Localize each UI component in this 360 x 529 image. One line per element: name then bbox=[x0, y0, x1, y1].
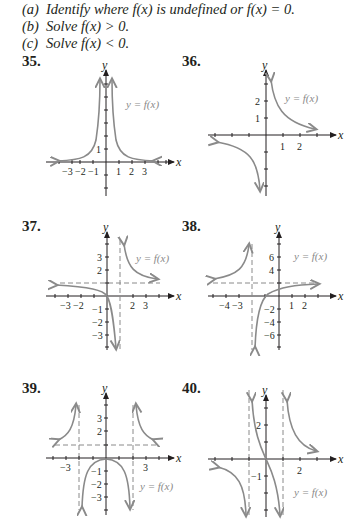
x-tick-label: 2 bbox=[130, 300, 135, 311]
graph-35: −3 −2 −1 1 2 3 1 x y y = f(x) bbox=[46, 58, 182, 196]
curve-left-branch bbox=[58, 405, 76, 440]
curve-right-branch bbox=[112, 80, 154, 161]
y-tick-label: −4 bbox=[264, 317, 275, 328]
y-tick-label: 2 bbox=[97, 426, 102, 437]
x-tick-label: −3 bbox=[62, 166, 73, 177]
graph-37: −3 −2 2 3 3 2 −1 −2 −3 x y y = f(x) bbox=[46, 220, 182, 350]
x-tick-label: −2 bbox=[75, 166, 86, 177]
y-tick-label: 3 bbox=[97, 252, 102, 263]
x-tick-label: −1 bbox=[88, 166, 99, 177]
y-tick-label: 3 bbox=[97, 413, 102, 424]
x-tick-label: 2 bbox=[297, 141, 302, 152]
y-axis-label: y bbox=[261, 58, 268, 72]
function-label: y = f(x) bbox=[135, 252, 169, 265]
x-tick-label: 2 bbox=[297, 465, 302, 476]
curve-left-branch bbox=[218, 467, 246, 515]
y-tick-label: 2 bbox=[97, 265, 102, 276]
x-tick-label: −3 bbox=[60, 462, 71, 473]
x-axis-label: x bbox=[337, 452, 344, 466]
x-axis-label: x bbox=[175, 289, 182, 303]
x-axis-label: x bbox=[337, 128, 344, 142]
function-label: y = f(x) bbox=[293, 486, 327, 499]
x-tick-label: 1 bbox=[289, 300, 294, 311]
y-tick-label: 1 bbox=[255, 113, 260, 124]
y-axis-label: y bbox=[102, 220, 109, 234]
y-tick-label: −2 bbox=[92, 317, 103, 328]
graph-39: −3 3 3 2 −1 −2 −3 x y y = f(x) bbox=[46, 381, 182, 515]
y-tick-label: 4 bbox=[269, 265, 274, 276]
x-tick-label: 3 bbox=[143, 462, 148, 473]
function-label: y = f(x) bbox=[293, 250, 327, 263]
x-tick-label: 2 bbox=[129, 166, 134, 177]
y-axis-label: y bbox=[261, 383, 268, 397]
x-tick-label: −2 bbox=[73, 300, 84, 311]
graph-38: −4 −3 1 2 6 4 −2 −4 −6 x y y = f(x) bbox=[208, 220, 344, 350]
x-axis-label: x bbox=[175, 451, 182, 465]
x-tick-label: −3 bbox=[232, 300, 243, 311]
function-label: y = f(x) bbox=[139, 480, 173, 493]
y-tick-label: −3 bbox=[92, 330, 103, 341]
y-tick-label: −1 bbox=[92, 304, 103, 315]
curve-right-branch bbox=[271, 80, 315, 129]
curve-left-branch bbox=[214, 245, 249, 279]
curve-left-branch bbox=[217, 142, 260, 190]
y-tick-label: 6 bbox=[269, 252, 274, 263]
y-tick-label: −2 bbox=[91, 479, 102, 490]
y-axis-label: y bbox=[101, 58, 108, 72]
x-tick-label: −3 bbox=[60, 300, 71, 311]
y-tick-label: −1 bbox=[251, 471, 262, 482]
x-tick-label: 2 bbox=[302, 300, 307, 311]
graphs-canvas: −3 −2 −1 1 2 3 1 x y y = f(x) 1 2 2 1 x … bbox=[0, 0, 360, 529]
graph-40: 2 2 −1 x y y = f(x) bbox=[208, 383, 344, 517]
curve-right-branch bbox=[136, 405, 154, 440]
x-axis-label: x bbox=[337, 289, 344, 303]
y-tick-label: 2 bbox=[255, 96, 260, 107]
y-tick-label: 1 bbox=[96, 144, 101, 155]
x-tick-label: 1 bbox=[280, 141, 285, 152]
y-axis-label: y bbox=[101, 381, 108, 395]
y-tick-label: −2 bbox=[264, 304, 275, 315]
x-tick-label: −4 bbox=[219, 300, 230, 311]
y-tick-label: 2 bbox=[256, 420, 261, 431]
y-tick-label: −1 bbox=[91, 466, 102, 477]
curve-left-branch bbox=[58, 80, 100, 161]
graph-36: 1 2 2 1 x y y = f(x) bbox=[208, 58, 344, 196]
x-axis-label: x bbox=[175, 155, 182, 169]
function-label: y = f(x) bbox=[284, 92, 318, 105]
y-axis-label: y bbox=[274, 220, 281, 234]
x-tick-label: 1 bbox=[116, 166, 121, 177]
y-tick-label: −6 bbox=[264, 330, 275, 341]
curve-right-branch bbox=[287, 400, 316, 451]
y-tick-label: −3 bbox=[91, 492, 102, 503]
x-tick-label: 3 bbox=[143, 300, 148, 311]
x-tick-label: 3 bbox=[142, 166, 147, 177]
function-label: y = f(x) bbox=[125, 98, 159, 111]
